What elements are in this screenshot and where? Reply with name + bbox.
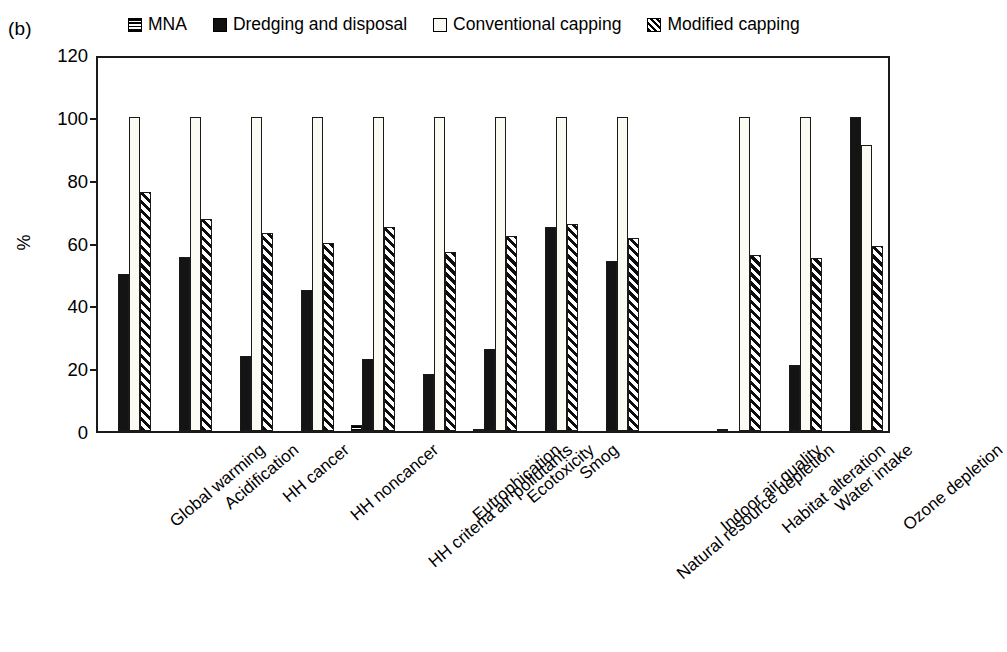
bar-modified-capping (750, 255, 761, 431)
bar-group (648, 58, 709, 431)
legend-item-mna: MNA (128, 16, 187, 34)
legend-label-conventional-capping: Conventional capping (453, 16, 621, 34)
plot-area (98, 58, 888, 431)
solid-black-swatch-icon (213, 18, 227, 32)
x-tick-label: Water intake (833, 441, 917, 516)
legend-item-conventional-capping: Conventional capping (433, 16, 621, 34)
bar-group (709, 58, 770, 431)
x-tick-label: Acidification (221, 441, 302, 513)
bar-dredging-and-disposal (545, 227, 556, 431)
x-tick-label: Smog (576, 441, 621, 483)
bar-dredging-and-disposal (606, 261, 617, 431)
x-tick-label: Indoor air quality (718, 441, 826, 535)
bar-modified-capping (811, 258, 822, 431)
bar-conventional-capping (800, 117, 811, 431)
bar-group (770, 58, 831, 431)
bar-modified-capping (323, 243, 334, 432)
bar-conventional-capping (312, 117, 323, 431)
x-tick-label: Eutrophication (469, 441, 564, 525)
bar-dredging-and-disposal (240, 356, 251, 431)
x-tick-label: Global warming (166, 441, 268, 531)
bar-conventional-capping (373, 117, 384, 431)
bar-modified-capping (201, 219, 212, 431)
bar-modified-capping (384, 227, 395, 431)
y-tick-label: 80 (40, 171, 88, 193)
bar-dredging-and-disposal (789, 365, 800, 431)
bar-conventional-capping (434, 117, 445, 431)
x-tick-label: HH noncancer (347, 441, 442, 525)
bar-modified-capping (262, 233, 273, 431)
bar-group (220, 58, 281, 431)
diagonal-hatch-swatch-icon (647, 18, 661, 32)
bar-group (281, 58, 342, 431)
y-tick-label: 20 (40, 359, 88, 381)
horizontal-hatch-swatch-icon (128, 18, 142, 32)
bar-conventional-capping (617, 117, 628, 431)
bar-modified-capping (567, 224, 578, 431)
bar-mna (473, 429, 484, 431)
bar-conventional-capping (129, 117, 140, 431)
bar-mna (717, 429, 728, 431)
bar-dredging-and-disposal (118, 274, 129, 431)
bar-group (831, 58, 892, 431)
panel-label: (b) (8, 18, 32, 40)
bar-conventional-capping (251, 117, 262, 431)
y-tick-label: 60 (40, 234, 88, 256)
legend-label-dredging-and-disposal: Dredging and disposal (233, 16, 407, 34)
bar-conventional-capping (556, 117, 567, 431)
bar-conventional-capping (861, 145, 872, 431)
legend-item-dredging-and-disposal: Dredging and disposal (213, 16, 407, 34)
y-tick-label: 100 (40, 108, 88, 130)
x-tick-label: Ozone depletion (900, 441, 1006, 534)
plot-frame (96, 56, 890, 433)
bar-dredging-and-disposal (362, 359, 373, 431)
bar-group (587, 58, 648, 431)
bar-group (98, 58, 159, 431)
y-tick-label: 40 (40, 296, 88, 318)
bar-dredging-and-disposal (301, 290, 312, 431)
bar-modified-capping (445, 252, 456, 431)
bar-dredging-and-disposal (484, 349, 495, 431)
legend-label-mna: MNA (148, 16, 187, 34)
bar-group (464, 58, 525, 431)
bar-mna (351, 425, 362, 431)
chart-legend: MNA Dredging and disposal Conventional c… (128, 16, 800, 34)
bar-group (526, 58, 587, 431)
bar-group (159, 58, 220, 431)
bar-modified-capping (628, 238, 639, 431)
x-tick-label: HH criteria air pollutants (425, 441, 575, 571)
bar-conventional-capping (190, 117, 201, 431)
legend-item-modified-capping: Modified capping (647, 16, 799, 34)
x-tick-label: Habitat alteration (779, 441, 889, 537)
y-axis-title: % (14, 234, 35, 250)
bar-modified-capping (506, 236, 517, 431)
bar-modified-capping (872, 246, 883, 431)
x-tick-label: Natural resource depletion (674, 441, 838, 583)
bar-conventional-capping (739, 117, 750, 431)
bar-dredging-and-disposal (423, 374, 434, 431)
legend-label-modified-capping: Modified capping (667, 16, 799, 34)
y-tick-label: 0 (40, 422, 88, 444)
white-swatch-icon (433, 18, 447, 32)
bar-dredging-and-disposal (850, 117, 861, 431)
bar-dredging-and-disposal (179, 257, 190, 431)
y-tick-label: 120 (40, 45, 88, 67)
x-tick-label: Ecotoxicity (524, 441, 598, 507)
bar-conventional-capping (495, 117, 506, 431)
bar-group (403, 58, 464, 431)
bar-group (342, 58, 403, 431)
bar-modified-capping (140, 192, 151, 431)
x-tick-label: HH cancer (279, 441, 352, 506)
